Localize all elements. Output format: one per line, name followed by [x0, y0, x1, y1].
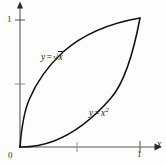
curve-label-x-squared: y=x2	[89, 109, 109, 119]
math-figure: 1 1 0 x y=√x y=x2	[0, 0, 166, 165]
origin-label: 0	[8, 151, 13, 160]
x-tick-label-1: 1	[137, 150, 142, 159]
curve-label-sqrt-x: y=√x	[41, 53, 64, 63]
y-tick-label-1: 1	[7, 15, 12, 24]
x-axis-label: x	[157, 140, 161, 150]
y-axis-arrowhead	[17, 2, 23, 9]
curve-label-sqrt-operator: =	[45, 52, 53, 62]
plot-canvas	[0, 0, 166, 165]
curve-label-sq-exponent: 2	[105, 106, 108, 113]
curve-label-sqrt-radicand: x	[58, 51, 64, 62]
curve-label-sq-operator: =	[93, 108, 101, 118]
